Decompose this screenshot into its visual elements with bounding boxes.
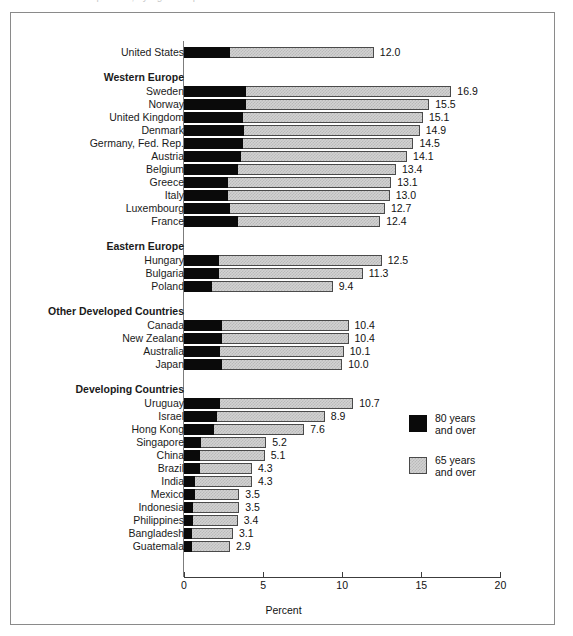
group-heading: Western Europe [11, 69, 556, 85]
group-heading-label: Western Europe [104, 69, 184, 85]
category-label: Norway [148, 98, 184, 111]
category-label: Japan [155, 358, 184, 371]
plot-area: United States12.0Western EuropeSweden16.… [11, 13, 556, 626]
stacked-bar [184, 346, 344, 357]
legend-label-line1: 80 years [435, 413, 476, 425]
x-axis-title: Percent [11, 604, 556, 616]
bar-segment-80-and-over [184, 476, 195, 487]
bar-value-label: 10.0 [348, 358, 368, 371]
category-label: Greece [150, 176, 184, 189]
stacked-bar [184, 476, 252, 487]
category-label: Israel [158, 410, 184, 423]
stacked-bar [184, 463, 252, 474]
bar-row: Mexico3.5 [11, 488, 556, 501]
scan-artifact-top: Percent of Population, by Age Group [0, 0, 573, 11]
bar-segment-80-and-over [184, 424, 214, 435]
bar-row: Hungary12.5 [11, 254, 556, 267]
bar-segment-80-and-over [184, 502, 193, 513]
bar-segment-80-and-over [184, 125, 244, 136]
bar-segment-80-and-over [184, 151, 241, 162]
bar-row: Bulgaria11.3 [11, 267, 556, 280]
bar-value-label: 3.5 [245, 501, 260, 514]
category-label: Bangladesh [129, 527, 184, 540]
group-heading-label: Developing Countries [75, 381, 184, 397]
bar-value-label: 16.9 [457, 85, 477, 98]
bar-row: Australia10.1 [11, 345, 556, 358]
category-label: Australia [143, 345, 184, 358]
group-heading-label: Other Developed Countries [48, 303, 184, 319]
bar-row: Philippines3.4 [11, 514, 556, 527]
stacked-bar [184, 450, 265, 461]
stacked-bar [184, 333, 349, 344]
legend-label-line2: and over [435, 425, 476, 437]
legend-item: 80 yearsand over [409, 413, 539, 443]
x-axis-tick-label: 5 [260, 579, 266, 591]
category-label: Uruguay [144, 397, 184, 410]
bar-row: Uruguay10.7 [11, 397, 556, 410]
stacked-bar [184, 515, 238, 526]
group-heading: Eastern Europe [11, 238, 556, 254]
category-label: New Zealand [122, 332, 184, 345]
stacked-bar [184, 190, 390, 201]
bar-value-label: 11.3 [369, 267, 389, 280]
bar-row: Austria14.1 [11, 150, 556, 163]
bar-row: Guatemala2.9 [11, 540, 556, 553]
bar-segment-80-and-over [184, 203, 230, 214]
bar-row: Luxembourg12.7 [11, 202, 556, 215]
stacked-bar [184, 528, 233, 539]
bar-value-label: 10.4 [355, 332, 375, 345]
bar-value-label: 14.9 [426, 124, 446, 137]
category-label: Mexico [151, 488, 184, 501]
bar-segment-80-and-over [184, 99, 246, 110]
bar-row: Sweden16.9 [11, 85, 556, 98]
bar-value-label: 13.1 [397, 176, 417, 189]
bar-segment-80-and-over [184, 138, 243, 149]
x-axis-tick [263, 572, 264, 578]
x-axis-tick [342, 572, 343, 578]
stacked-bar [184, 125, 420, 136]
bar-segment-80-and-over [184, 177, 228, 188]
bar-value-label: 5.2 [272, 436, 287, 449]
category-label: Canada [147, 319, 184, 332]
stacked-bar [184, 411, 325, 422]
category-label: China [157, 449, 184, 462]
bar-segment-80-and-over [184, 398, 220, 409]
bar-segment-80-and-over [184, 86, 246, 97]
x-axis-tick-label: 0 [181, 579, 187, 591]
category-label: Poland [151, 280, 184, 293]
bar-segment-80-and-over [184, 463, 200, 474]
stacked-bar [184, 151, 407, 162]
bar-segment-80-and-over [184, 190, 228, 201]
bar-segment-80-and-over [184, 216, 238, 227]
bar-segment-80-and-over [184, 359, 222, 370]
category-label: Austria [151, 150, 184, 163]
bar-row: Poland9.4 [11, 280, 556, 293]
bar-value-label: 12.0 [380, 46, 400, 59]
bar-row: Norway15.5 [11, 98, 556, 111]
stacked-bar [184, 138, 413, 149]
category-label: Guatemala [133, 540, 184, 553]
stacked-bar [184, 255, 382, 266]
bar-value-label: 12.5 [388, 254, 408, 267]
stacked-bar [184, 164, 396, 175]
bar-row: United States12.0 [11, 46, 556, 59]
bar-segment-80-and-over [184, 320, 222, 331]
bar-row: Bangladesh3.1 [11, 527, 556, 540]
stacked-bar [184, 203, 385, 214]
group-heading-label: Eastern Europe [106, 238, 184, 254]
stacked-bar [184, 99, 429, 110]
bar-value-label: 9.4 [339, 280, 354, 293]
stacked-bar [184, 398, 353, 409]
bar-value-label: 10.7 [359, 397, 379, 410]
bar-value-label: 7.6 [310, 423, 325, 436]
category-label: Belgium [146, 163, 184, 176]
stacked-bar [184, 541, 230, 552]
stacked-bar [184, 216, 380, 227]
stacked-bar [184, 177, 391, 188]
bar-segment-80-and-over [184, 164, 238, 175]
x-axis-tick [184, 572, 185, 578]
bar-row: Italy13.0 [11, 189, 556, 202]
category-label: United States [121, 46, 184, 59]
bar-row: France12.4 [11, 215, 556, 228]
bar-value-label: 15.5 [435, 98, 455, 111]
